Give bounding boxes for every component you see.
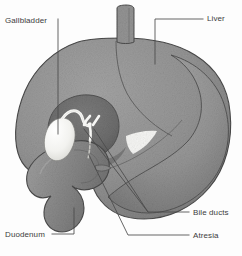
anatomical-figure: Gallbladder Liver Bile ducts Atresia Duo…: [0, 0, 242, 256]
anatomy-illustration: [0, 0, 242, 256]
label-liver: Liver: [207, 14, 225, 23]
vessel-stub: [117, 5, 134, 44]
label-gallbladder: Gallbladder: [5, 16, 47, 25]
organ-mass-group: [16, 5, 231, 232]
label-atresia: Atresia: [193, 231, 219, 240]
label-bile-ducts: Bile ducts: [193, 208, 229, 217]
label-duodenum: Duodenum: [5, 230, 45, 239]
duct-confluence: [88, 122, 91, 125]
